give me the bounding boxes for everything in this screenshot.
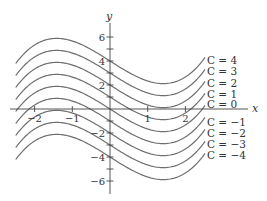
x-tick-label: 2 xyxy=(182,113,188,124)
y-tick-label: 6 xyxy=(99,32,105,43)
x-tick-label: −2 xyxy=(27,113,42,124)
solution-curves-diagram: x y −2−112 642−2−4−6 C = 4C = 3C = 2C = … xyxy=(0,0,267,201)
y-tick-label: 2 xyxy=(99,80,105,91)
y-tick-label: 4 xyxy=(99,56,105,67)
curve-label: C = 4 xyxy=(207,54,238,66)
x-tick-label: −1 xyxy=(65,113,80,124)
y-tick-label: −4 xyxy=(90,152,105,163)
x-axis-label: x xyxy=(252,102,259,115)
y-axis-label: y xyxy=(105,10,113,23)
y-tick-label: −6 xyxy=(90,176,105,187)
curve-label: C = 3 xyxy=(207,65,237,77)
curve-label: C = −4 xyxy=(207,149,246,161)
curve-label: C = 0 xyxy=(207,98,237,110)
y-tick-label: −2 xyxy=(90,128,105,139)
x-tick-label: 1 xyxy=(145,113,151,124)
curve-labels: C = 4C = 3C = 2C = 1C = 0C = −1C = −2C =… xyxy=(207,54,246,161)
